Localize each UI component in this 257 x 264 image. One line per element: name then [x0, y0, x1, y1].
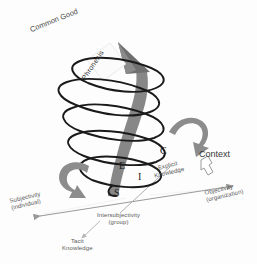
context-arrow-left — [59, 162, 89, 198]
seci-phase-i: I — [138, 172, 141, 182]
knowledge-spiral — [58, 58, 164, 196]
tacit-knowledge-label: Tacit Knowledge — [62, 238, 93, 252]
seci-phase-c: C — [160, 146, 167, 156]
seci-phase-e: E — [119, 161, 125, 171]
seci-phase-s: S — [114, 188, 120, 198]
seci-spiral-diagram: Common Good Phronesis C E I S Explicit K… — [0, 0, 257, 264]
context-label: Context — [199, 149, 230, 159]
intersubjectivity-axis-label: Intersubjectivity (group) — [97, 212, 140, 226]
